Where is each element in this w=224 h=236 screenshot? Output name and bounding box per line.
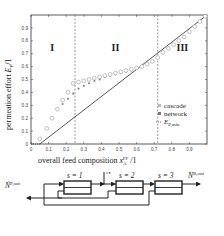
x-axis-ticks: 00.10.20.30.40.50.60.70.80.9 [30, 15, 193, 152]
y-axis-label: permeation effort EP/1 [4, 58, 14, 130]
cascade-point [124, 69, 128, 73]
plot-frame [31, 15, 207, 144]
ep-min-line [31, 15, 207, 144]
stage-3-label: s = 3 [158, 172, 174, 180]
y-tick-label: 0.9 [22, 26, 29, 31]
network-legend-marker [158, 112, 161, 115]
y-tick-label: 0 [25, 142, 28, 147]
stage-1-label: s = 1 [67, 172, 82, 180]
cascade-point [129, 67, 133, 71]
y-tick-label: 0.2 [22, 116, 29, 121]
network-point [77, 87, 79, 89]
stage-2: s = 2 [116, 172, 143, 194]
cascade-point [166, 47, 170, 51]
x-tick-label: 0.9 [186, 147, 193, 152]
x-tick-label: 0.1 [45, 147, 52, 152]
y-tick-label: 0.3 [22, 103, 29, 108]
cascade-point [203, 14, 207, 18]
network-point [88, 82, 90, 84]
y-tick-label: 0.6 [22, 64, 29, 69]
cascade-point [156, 56, 160, 60]
cascade-point [135, 66, 139, 70]
cascade-point [145, 62, 149, 66]
stage-2-label: s = 2 [119, 172, 135, 180]
cascade-point [77, 80, 81, 84]
cascade-point [140, 65, 144, 69]
network-point [67, 98, 69, 100]
y-tick-label: 0.5 [22, 77, 29, 82]
y-tick-label: 0.8 [22, 38, 29, 43]
cascade-point [103, 74, 107, 78]
cascade-point [119, 70, 123, 74]
cascade-point [56, 107, 60, 111]
cascade-point [71, 81, 75, 85]
permeate-out-label: ṄP,out [4, 181, 20, 190]
legend-network: network [164, 110, 187, 118]
cascade-series [38, 14, 207, 140]
legend-cascade: cascade [164, 102, 186, 110]
cascade-point [172, 43, 176, 47]
stage-1: s = 1 [64, 172, 91, 194]
retentate-out-label: ṄR,out [187, 172, 205, 180]
feed-label: ṄFF [105, 172, 117, 176]
x-axis-label: overall feed composition xAFF /1 [38, 156, 137, 166]
x-tick-label: 0.8 [169, 147, 176, 152]
x-tick-label: 0.3 [81, 147, 88, 152]
cascade-point [87, 78, 91, 82]
x-tick-label: 0.2 [63, 147, 70, 152]
cascade-point [182, 35, 186, 39]
cascade-point [198, 20, 202, 24]
cascade-point [188, 30, 192, 34]
process-flow-diagram: s = 1 s = 2 s = 3 ṄP,out ṄFF ṄR,out [0, 172, 224, 236]
x-tick-label: 0 [30, 147, 33, 152]
region-label-III: III [177, 42, 189, 53]
x-tick-label: 0.5 [116, 147, 123, 152]
cascade-point [114, 71, 118, 75]
cascade-point [98, 75, 102, 79]
y-tick-label: 0.7 [22, 51, 29, 56]
x-tick-label: 0.6 [133, 147, 140, 152]
cascade-point [45, 127, 49, 131]
legend: cascade network EP,min [156, 102, 187, 128]
x-tick-label: 0.4 [98, 147, 105, 152]
flow-lines [27, 172, 200, 205]
y-tick-label: 0.1 [22, 129, 29, 134]
cascade-point [193, 25, 197, 29]
cascade-point [151, 60, 155, 64]
cascade-point [108, 72, 112, 76]
cascade-point [177, 39, 181, 43]
legend-epmin: EP,min [163, 118, 180, 128]
y-tick-label: 0.4 [22, 90, 29, 95]
cascade-point [92, 76, 96, 80]
cascade-point [82, 79, 86, 83]
region-label-I: I [50, 42, 54, 53]
stage-3: s = 3 [155, 172, 182, 194]
cascade-point [50, 116, 54, 120]
x-tick-label: 0.7 [151, 147, 158, 152]
network-point [72, 93, 74, 95]
network-point [62, 103, 64, 105]
region-label-II: II [112, 42, 120, 53]
network-series [39, 15, 207, 140]
cascade-legend-marker [158, 104, 161, 107]
cascade-point [161, 51, 165, 55]
cascade-point [38, 137, 42, 141]
cascade-point [61, 98, 65, 102]
permeation-effort-chart: 00.10.20.30.40.50.60.70.80.9 00.10.20.30… [0, 0, 224, 170]
network-point [83, 85, 85, 87]
cascade-point [66, 91, 70, 95]
